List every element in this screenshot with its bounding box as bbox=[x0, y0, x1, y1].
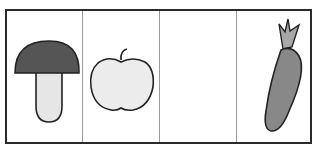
apple-icon bbox=[83, 11, 159, 142]
mushroom-icon bbox=[7, 11, 82, 142]
picture-strip: Mushroom Apple Carrot bbox=[5, 9, 312, 144]
carrot-icon bbox=[237, 11, 313, 142]
cell-empty bbox=[159, 11, 236, 142]
cell-apple: Apple bbox=[82, 11, 159, 142]
cell-mushroom: Mushroom bbox=[7, 11, 82, 142]
cell-carrot: Carrot bbox=[236, 11, 310, 142]
